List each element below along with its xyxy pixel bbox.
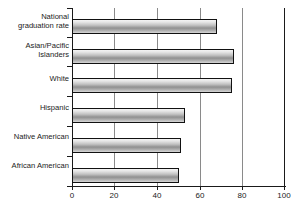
gridline-80	[242, 8, 243, 186]
category-label-national-graduation-rate: National graduation rate	[0, 12, 69, 30]
category-label-african-american: African American	[0, 161, 69, 170]
gridline-40	[157, 8, 158, 186]
x-axis-label-40: 40	[144, 191, 170, 200]
x-axis-tick	[114, 186, 115, 190]
x-axis-tick	[284, 186, 285, 190]
bar-hispanic	[72, 108, 185, 123]
x-axis-tick	[200, 186, 201, 190]
bar-asian-pacific-islanders	[72, 49, 234, 64]
x-axis-line	[72, 186, 286, 187]
y-axis-line	[72, 8, 73, 186]
x-axis-label-60: 60	[187, 191, 213, 200]
category-label-asian-pacific-islanders: Asian/Pacific Islanders	[0, 41, 69, 59]
bar-chart: National graduation rate Asian/Pacific I…	[0, 0, 293, 207]
x-axis-label-100: 100	[271, 191, 293, 200]
x-axis-tick	[242, 186, 243, 190]
x-axis-label-80: 80	[229, 191, 255, 200]
gridline-60	[200, 8, 201, 186]
x-axis-tick	[157, 186, 158, 190]
x-axis-label-20: 20	[101, 191, 127, 200]
x-axis-label-0: 0	[59, 191, 85, 200]
gridline-20	[114, 8, 115, 186]
category-label-hispanic: Hispanic	[0, 103, 69, 112]
bar-african-american	[72, 168, 179, 183]
x-axis-tick	[72, 186, 73, 190]
gridline-100	[284, 8, 285, 186]
bar-national-graduation-rate	[72, 19, 217, 34]
category-label-white: White	[0, 74, 69, 83]
bar-white	[72, 78, 232, 93]
plot-area	[72, 8, 285, 186]
bar-native-american	[72, 138, 181, 153]
category-label-native-american: Native American	[0, 132, 69, 141]
